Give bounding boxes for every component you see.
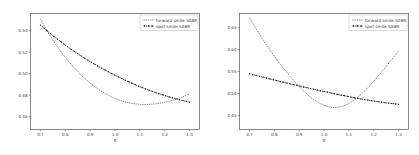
series-marker [289, 83, 290, 84]
series-marker [169, 96, 170, 97]
series-marker [118, 76, 119, 77]
legend-marker [353, 25, 355, 27]
series-marker [121, 78, 122, 79]
series-marker [293, 84, 294, 85]
series-marker [77, 53, 78, 54]
series-marker [269, 78, 270, 79]
series-marker [64, 44, 65, 45]
legend-marker [148, 25, 150, 27]
x-tick-label: 1.2 [161, 132, 168, 137]
x-tick-label: 0.7 [37, 132, 44, 137]
x-tick-label: 0.9 [87, 132, 94, 137]
series-marker [296, 85, 297, 86]
series-marker [158, 93, 159, 94]
y-tick-label: 0.50 [18, 71, 28, 76]
x-tick-label: 1.1 [137, 132, 144, 137]
series-marker [87, 60, 88, 61]
series-marker [94, 64, 95, 65]
series-marker [273, 79, 274, 80]
series-marker [259, 76, 260, 77]
series-marker [367, 100, 368, 101]
series-marker [344, 95, 345, 96]
series-marker [313, 89, 314, 90]
series-marker [317, 89, 318, 90]
series-marker [53, 36, 54, 37]
series-marker [354, 97, 355, 98]
series-marker [276, 80, 277, 81]
series-marker [388, 102, 389, 103]
series-marker [189, 101, 190, 102]
series-marker [306, 87, 307, 88]
series-marker [50, 33, 51, 34]
plot-frame [240, 14, 409, 130]
x-tick-label: 1.2 [370, 132, 377, 137]
series-marker [70, 48, 71, 49]
legend-label: forward smile SABR [365, 18, 406, 23]
series-marker [43, 27, 44, 28]
series-marker [340, 94, 341, 95]
series-marker [128, 81, 129, 82]
series-line-forward-smile-sabr [40, 19, 189, 104]
chart-panel-left: 0.540.520.500.480.460.70.80.91.01.11.21.… [0, 0, 210, 155]
series-marker [283, 82, 284, 83]
series-marker [320, 90, 321, 91]
series-marker [279, 81, 280, 82]
series-marker [300, 86, 301, 87]
chart-panel-right: 0.650.600.550.500.450.70.80.91.01.11.21.… [209, 0, 419, 155]
series-marker [145, 88, 146, 89]
chart-svg-right: 0.650.600.550.500.450.70.80.91.01.11.21.… [209, 0, 419, 155]
x-tick-label: 1.1 [346, 132, 353, 137]
chart-svg-left: 0.540.520.500.480.460.70.80.91.01.11.21.… [0, 0, 210, 155]
series-marker [40, 24, 41, 25]
series-marker [148, 89, 149, 90]
x-tick-label: 0.8 [62, 132, 69, 137]
series-marker [125, 80, 126, 81]
series-marker [286, 82, 287, 83]
series-marker [384, 102, 385, 103]
series-marker [347, 96, 348, 97]
series-marker [57, 38, 58, 39]
series-marker [303, 86, 304, 87]
y-tick-label: 0.65 [227, 25, 237, 30]
series-marker [252, 74, 253, 75]
series-marker [378, 101, 379, 102]
series-marker [47, 30, 48, 31]
y-tick-label: 0.50 [227, 91, 237, 96]
series-line-spot-smile-sabr [40, 25, 189, 102]
legend-marker [357, 25, 359, 27]
series-marker [398, 104, 399, 105]
series-marker [165, 95, 166, 96]
series-marker [131, 83, 132, 84]
legend-label: spot smile SABR [156, 24, 190, 29]
legend-marker [144, 25, 146, 27]
legend-marker [152, 25, 154, 27]
x-tick-label: 0.9 [296, 132, 303, 137]
series-marker [80, 55, 81, 56]
y-tick-label: 0.46 [18, 114, 28, 119]
series-marker [364, 99, 365, 100]
series-marker [361, 98, 362, 99]
series-marker [141, 87, 142, 88]
series-marker [256, 75, 257, 76]
series-marker [371, 100, 372, 101]
series-marker [104, 69, 105, 70]
series-marker [60, 41, 61, 42]
series-marker [310, 88, 311, 89]
x-tick-label: 1.0 [321, 132, 328, 137]
series-marker [138, 86, 139, 87]
y-tick-label: 0.55 [227, 69, 237, 74]
series-marker [266, 77, 267, 78]
series-marker [334, 93, 335, 94]
series-marker [186, 101, 187, 102]
series-marker [155, 92, 156, 93]
series-line-forward-smile-sabr [249, 18, 398, 108]
series-marker [135, 84, 136, 85]
series-marker [262, 77, 263, 78]
legend-label: spot smile SABR [365, 24, 399, 29]
x-tick-label: 1.0 [112, 132, 119, 137]
series-marker [111, 73, 112, 74]
series-marker [108, 71, 109, 72]
series-marker [74, 51, 75, 52]
series-marker [91, 62, 92, 63]
series-marker [162, 94, 163, 95]
